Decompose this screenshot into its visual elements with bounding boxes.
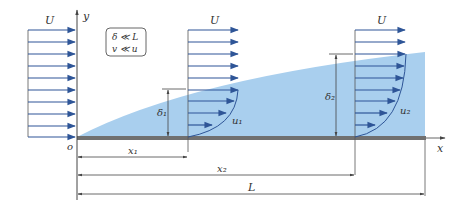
free-stream-label-left: U: [45, 14, 55, 27]
delta-2-label: δ₂: [325, 91, 335, 102]
length-label: L: [247, 181, 255, 194]
flat-plate: [77, 136, 426, 140]
free-stream-label-2: U: [377, 14, 387, 27]
assumption-1: δ ≪ L: [112, 32, 138, 42]
velocity-label-u2: u₂: [400, 105, 410, 116]
x-axis-label: x: [437, 142, 444, 155]
assumption-2: v ≪ u: [112, 44, 138, 54]
boundary-layer-diagram: x y o U δ ≪ L v ≪ u U u₁ δ₁: [0, 0, 469, 216]
x2-label: x₂: [217, 163, 227, 174]
free-stream-label-1: U: [210, 14, 220, 27]
y-axis-label: y: [82, 10, 90, 23]
delta-1-label: δ₁: [157, 107, 167, 118]
origin-label: o: [67, 141, 73, 152]
inlet-velocity-profile: [28, 30, 75, 137]
x1-label: x₁: [128, 145, 138, 156]
velocity-label-u1: u₁: [232, 115, 242, 126]
boundary-layer-region: [77, 52, 425, 137]
